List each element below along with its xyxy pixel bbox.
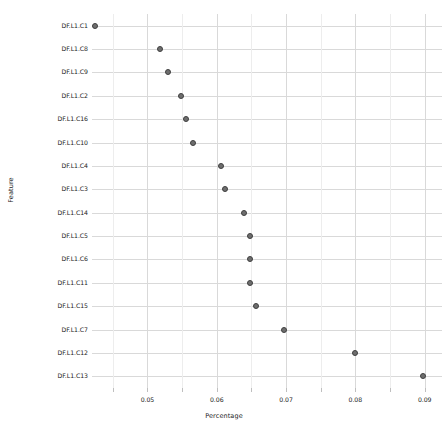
x-axis-tick-label: 0.09: [418, 396, 432, 403]
y-axis-tick-label: DF.L1.C14: [58, 209, 88, 217]
gridline-vertical-major: [286, 14, 287, 388]
x-axis-tick-mark: [390, 388, 391, 392]
x-axis-tick-mark: [425, 388, 426, 392]
gridline-vertical-minor: [182, 14, 183, 388]
data-point: [247, 233, 253, 239]
plot-area: [92, 14, 442, 388]
gridline-vertical-major: [147, 14, 148, 388]
y-axis-tick-label: DF.L1.C13: [58, 372, 88, 380]
y-axis-tick-labels: DF.L1.C1DF.L1.C8DF.L1.C9DF.L1.C2DF.L1.C1…: [0, 0, 88, 437]
x-axis-tick-label: 0.08: [349, 396, 363, 403]
y-axis-tick-label: DF.L1.C12: [58, 349, 88, 357]
scatter-chart-figure: Feature DF.L1.C1DF.L1.C8DF.L1.C9DF.L1.C2…: [0, 0, 448, 437]
y-axis-tick-label: DF.L1.C10: [58, 139, 88, 147]
data-point: [218, 163, 224, 169]
y-axis-tick-label: DF.L1.C3: [61, 185, 88, 193]
x-axis-tick-mark: [147, 388, 148, 392]
y-axis-tick-label: DF.L1.C4: [61, 162, 88, 170]
x-axis-title: Percentage: [0, 412, 448, 420]
y-axis-tick-label: DF.L1.C11: [58, 279, 88, 287]
gridline-vertical-minor: [113, 14, 114, 388]
data-point: [190, 140, 196, 146]
data-point: [157, 46, 163, 52]
gridline-vertical-minor: [251, 14, 252, 388]
x-axis-tick-mark: [321, 388, 322, 392]
data-point: [247, 280, 253, 286]
x-axis-tick-mark: [355, 388, 356, 392]
y-axis-tick-label: DF.L1.C6: [61, 255, 88, 263]
x-axis-tick-label: 0.05: [141, 396, 155, 403]
y-axis-tick-label: DF.L1.C5: [61, 232, 88, 240]
data-point: [253, 303, 259, 309]
gridline-vertical-minor: [321, 14, 322, 388]
data-point: [281, 327, 287, 333]
data-point: [165, 69, 171, 75]
y-axis-tick-label: DF.L1.C1: [61, 22, 88, 30]
data-point: [178, 93, 184, 99]
x-axis-tick-mark: [251, 388, 252, 392]
y-axis-tick-label: DF.L1.C2: [61, 92, 88, 100]
data-point: [247, 256, 253, 262]
gridline-vertical-major: [217, 14, 218, 388]
x-axis-tick-mark: [217, 388, 218, 392]
y-axis-tick-label: DF.L1.C7: [61, 326, 88, 334]
data-point: [222, 186, 228, 192]
gridline-vertical-major: [355, 14, 356, 388]
data-point: [420, 373, 426, 379]
gridline-vertical-major: [425, 14, 426, 388]
y-axis-tick-label: DF.L1.C9: [61, 68, 88, 76]
x-axis-tick-mark: [182, 388, 183, 392]
y-axis-tick-label: DF.L1.C16: [58, 115, 88, 123]
x-axis-tick-label: 0.07: [279, 396, 293, 403]
x-axis-tick-label: 0.06: [210, 396, 224, 403]
data-point: [352, 350, 358, 356]
y-axis-tick-label: DF.L1.C15: [58, 302, 88, 310]
data-point: [183, 116, 189, 122]
data-point: [92, 23, 98, 29]
y-axis-tick-label: DF.L1.C8: [61, 45, 88, 53]
x-axis-tick-mark: [113, 388, 114, 392]
gridline-vertical-minor: [390, 14, 391, 388]
data-point: [241, 210, 247, 216]
x-axis-tick-mark: [286, 388, 287, 392]
